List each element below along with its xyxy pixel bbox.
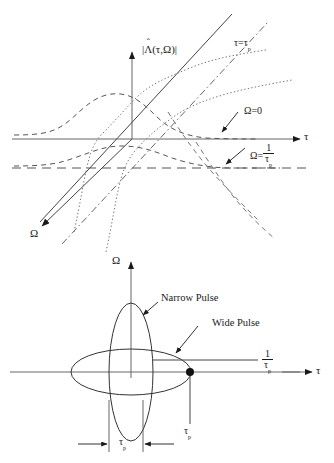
- omega-taup-leader: [226, 148, 245, 164]
- denominator-sub: p: [269, 161, 272, 168]
- taup-marker-dot: [186, 368, 194, 376]
- omega-zero-cut-curve: [14, 94, 258, 139]
- lambda-hat: ˆΛ: [144, 44, 152, 55]
- fraction-numerator-bottom: 1: [262, 349, 273, 359]
- fraction-numerator: 1: [263, 143, 274, 153]
- figure-container: |ˆΛ(τ,Ω)| τ Ω τ=τp Ω=0 Ω=1τp Ω τ Narrow …: [0, 0, 334, 463]
- magnitude-axis-label: |ˆΛ(τ,Ω)|: [142, 44, 177, 55]
- tau-axis-label-top: τ: [304, 131, 308, 142]
- wide-pulse-label: Wide Pulse: [212, 318, 260, 329]
- top-plot-axes: [12, 52, 300, 226]
- omega-axis-label-bottom: Ω: [112, 255, 120, 266]
- one-over-taup-label-bottom: 1τp: [262, 352, 273, 373]
- tau-equals-taup-line: [40, 14, 232, 222]
- omega-equals-prefix: Ω=: [250, 150, 263, 161]
- taup-width-label: τp: [119, 437, 126, 447]
- lambda-args: (τ,Ω): [152, 43, 175, 55]
- omega-zero-label: Ω=0: [244, 106, 262, 116]
- fraction-denominator: τp: [263, 153, 274, 164]
- omega-axis-label-top: Ω: [30, 228, 38, 239]
- omega-taup-cut-curve: [14, 146, 280, 168]
- taup-point-label: τp: [184, 426, 191, 436]
- omega-one-over-taup-label: Ω=1τp: [250, 146, 274, 167]
- fraction-denominator-bottom: τp: [262, 359, 273, 370]
- taup-point-sub: p: [188, 433, 191, 440]
- tau-equals-taup-main: τ=τ: [234, 37, 248, 48]
- omega-zero-leader: [222, 112, 238, 132]
- one-over-taup-fraction: 1τp: [263, 143, 274, 164]
- diagram-canvas: [0, 0, 334, 463]
- tau-axis-label-bottom: τ: [316, 365, 320, 376]
- narrow-pulse-leader: [143, 302, 158, 315]
- denominator-sub-bottom: p: [268, 367, 271, 374]
- tau-equals-taup-label: τ=τp: [234, 38, 251, 48]
- hat-accent: ˆ: [147, 39, 150, 48]
- taup-width-sub: p: [123, 444, 126, 451]
- tau-equals-taup-sub: p: [248, 45, 251, 52]
- one-over-taup-fraction-bottom: 1τp: [262, 349, 273, 370]
- tau-equals-taup-line-secondary: [62, 22, 268, 244]
- skirt-curve-1: [168, 112, 258, 220]
- wide-pulse-leader: [176, 326, 198, 353]
- narrow-pulse-label: Narrow Pulse: [161, 293, 218, 304]
- bar-close: |: [175, 43, 177, 55]
- magnitude-profile-dotted-1: [74, 50, 266, 232]
